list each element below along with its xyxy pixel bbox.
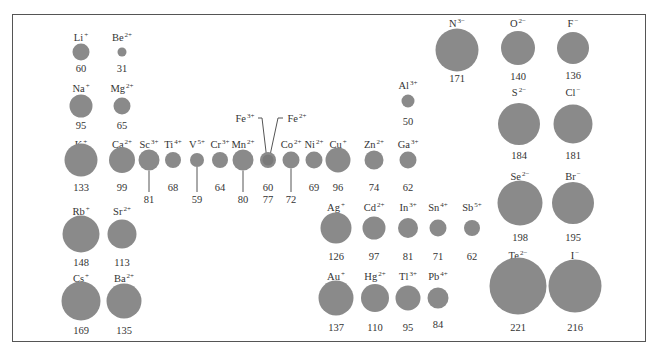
ion-radius-value: 69 (309, 183, 320, 194)
ion-radius-value: 181 (565, 151, 581, 162)
ion-radius-value: 148 (73, 258, 89, 269)
ion-circle-icon (109, 147, 135, 173)
ion-circle-icon (361, 284, 389, 312)
ion-symbol-label: Li+ (74, 32, 88, 44)
fe2-inner-circle-icon (263, 155, 274, 166)
ion-radius-value: 110 (367, 323, 382, 334)
ion-circle-icon (549, 260, 602, 313)
ion-radius-value: 140 (510, 72, 526, 83)
ion-radius-value: 50 (403, 117, 414, 128)
ion-circle-icon (554, 105, 593, 144)
ion-radius-value: 221 (510, 323, 526, 334)
ion-circle-icon (319, 281, 354, 316)
ion-symbol-label: Zn2+ (364, 139, 384, 151)
ion-circle-icon (70, 95, 93, 118)
ion-radius-value: 184 (511, 151, 527, 162)
ion-radius-value: 126 (328, 252, 344, 263)
ion-symbol-label: Na+ (72, 83, 89, 95)
ion-radius-value: 216 (567, 323, 583, 334)
ion-symbol-label: F− (568, 18, 579, 30)
ion-radius-value: 59 (192, 195, 203, 206)
ion-radius-value: 96 (333, 183, 344, 194)
ion-circle-icon (326, 148, 351, 173)
ion-circle-icon (306, 152, 323, 169)
ion-radius-value: 135 (116, 326, 132, 337)
ion-symbol-label: Hg2+ (364, 271, 385, 283)
ion-radius-value: 97 (369, 252, 380, 263)
ion-circle-icon (108, 220, 137, 249)
ion-circle-icon (396, 286, 421, 311)
ion-radius-value: 64 (215, 183, 226, 194)
ion-circle-icon (114, 98, 131, 115)
ion-symbol-label: Tl3+ (399, 271, 417, 283)
ion-symbol-label: Ni2+ (305, 139, 324, 151)
ion-symbol-label: Br− (565, 171, 580, 183)
ion-circle-icon (118, 48, 127, 57)
ion-radius-value: 71 (433, 252, 444, 263)
ion-circle-icon (365, 151, 384, 170)
ion-circle-icon (233, 150, 254, 171)
ion-radius-value: 81 (403, 252, 414, 263)
ion-symbol-label: Sr2+ (113, 206, 131, 218)
fe2-label: Fe2+ (288, 113, 307, 125)
ion-circle-icon (490, 258, 547, 315)
ion-symbol-label: Sb5+ (462, 202, 482, 214)
fe2-radius-value: 77 (263, 195, 274, 206)
ion-radius-value: 195 (565, 233, 581, 244)
ion-circle-icon (65, 144, 98, 177)
ion-radius-value: 68 (168, 183, 179, 194)
ion-radius-value: 72 (286, 195, 297, 206)
ion-radius-value: 65 (117, 121, 128, 132)
ion-circle-icon (107, 284, 142, 319)
ion-circle-icon (73, 44, 90, 61)
ion-radius-value: 60 (76, 64, 87, 75)
ion-symbol-label: Be2+ (112, 32, 132, 44)
ion-radius-value: 74 (369, 183, 380, 194)
ion-circle-icon (552, 182, 594, 224)
ion-symbol-label: Co2+ (281, 139, 302, 151)
ion-circle-icon (501, 31, 535, 65)
ion-radius-value: 95 (76, 121, 87, 132)
ion-circle-icon (363, 217, 386, 240)
ion-symbol-label: V5+ (189, 139, 205, 151)
ion-circle-icon (498, 181, 543, 226)
ion-symbol-label: S2− (512, 87, 526, 99)
ion-circle-icon (212, 152, 228, 168)
ion-radius-value: 99 (117, 183, 128, 194)
ion-symbol-label: Cd2+ (364, 202, 385, 214)
ion-radius-value: 95 (403, 323, 414, 334)
ion-circle-icon (498, 103, 540, 145)
ion-circle-icon (430, 220, 447, 237)
ion-radius-value: 198 (512, 233, 528, 244)
ion-radius-value: 136 (565, 71, 581, 82)
ion-circle-icon (428, 288, 449, 309)
ion-circle-icon (557, 32, 589, 64)
ion-circle-icon (62, 282, 101, 321)
ion-radius-value: 31 (117, 64, 128, 75)
ion-symbol-label: Al3+ (399, 80, 418, 92)
ion-symbol-label: Pb4+ (428, 271, 448, 283)
ion-symbol-label: O2− (510, 18, 526, 30)
ion-circle-icon (190, 153, 204, 167)
ion-radius-value: 80 (238, 195, 249, 206)
ion-radius-value: 133 (73, 183, 89, 194)
fe3-label: Fe3+ (236, 113, 255, 125)
ion-radius-value: 137 (328, 323, 344, 334)
ion-circle-icon (139, 150, 160, 171)
ion-radius-value: 171 (449, 74, 465, 85)
ion-symbol-label: Cl− (566, 87, 581, 99)
ion-symbol-label: Sn4+ (428, 202, 448, 214)
ion-circle-icon (321, 213, 352, 244)
ion-symbol-label: Cr3+ (211, 139, 230, 151)
ion-radius-value: 81 (144, 195, 155, 206)
ion-symbol-label: Ga3+ (398, 139, 419, 151)
ion-radius-value: 60 (263, 183, 274, 194)
ion-radius-value: 62 (403, 183, 414, 194)
ion-symbol-label: Mg2+ (110, 83, 133, 95)
ion-radius-value: 113 (114, 258, 129, 269)
ion-circle-icon (283, 152, 300, 169)
ion-radius-value: 84 (433, 320, 444, 331)
ion-symbol-label: In3+ (399, 202, 416, 214)
ion-circle-icon (464, 220, 480, 236)
ion-radius-value: 62 (467, 252, 478, 263)
